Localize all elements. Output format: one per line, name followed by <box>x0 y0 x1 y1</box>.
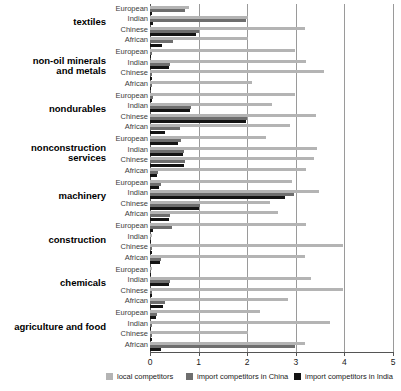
bar-group <box>150 135 393 179</box>
bar-local <box>150 60 306 63</box>
bar-india <box>150 338 152 341</box>
bar-local <box>150 223 306 226</box>
bar-india <box>150 55 151 58</box>
bar-india <box>150 131 165 134</box>
bar-row <box>150 157 393 168</box>
x-tick-label-2: 2 <box>237 357 257 367</box>
bar-row <box>150 60 393 71</box>
bar-row <box>150 168 393 179</box>
legend-swatch-icon <box>293 372 302 381</box>
x-tick-0 <box>150 352 151 356</box>
subcategory-label: European <box>108 92 148 100</box>
bar-row <box>150 190 393 201</box>
legend-item[interactable]: import competitors in China <box>185 372 288 381</box>
bar-india <box>150 77 152 80</box>
bar-india <box>150 164 184 167</box>
subcategory-label: European <box>108 179 148 187</box>
legend-item[interactable]: import competitors in India <box>293 372 393 381</box>
subcategory-label: Indian <box>108 146 148 154</box>
bar-china <box>150 9 185 12</box>
bar-india <box>150 99 152 102</box>
category-label: agriculture and food <box>0 322 106 333</box>
legend-label: import competitors in China <box>197 372 288 381</box>
bar-row <box>150 277 393 288</box>
plot-area <box>150 4 393 352</box>
bar-row <box>150 310 393 321</box>
bar-row <box>150 93 393 104</box>
bar-india <box>150 294 152 297</box>
x-tick-label-1: 1 <box>189 357 209 367</box>
bar-india <box>150 240 151 243</box>
bar-row <box>150 234 393 245</box>
bar-row <box>150 180 393 191</box>
bar-india <box>150 348 161 351</box>
bar-india <box>150 142 178 145</box>
bar-india <box>150 153 183 156</box>
bar-row <box>150 255 393 266</box>
bar-row <box>150 27 393 38</box>
bar-group <box>150 265 393 309</box>
subcategory-label: European <box>108 266 148 274</box>
bar-row <box>150 201 393 212</box>
bar-india <box>150 229 153 232</box>
bar-china <box>150 345 295 348</box>
category-axis-labels: textilesnon-oil mineralsand metalsnondur… <box>0 4 106 352</box>
x-tick-3 <box>296 352 297 356</box>
subcategory-label: African <box>108 297 148 305</box>
bar-row <box>150 6 393 17</box>
subcategory-label: European <box>108 5 148 13</box>
chart-legend: local competitorsimport competitors in C… <box>105 372 395 386</box>
subcategory-label: European <box>108 309 148 317</box>
bar-row <box>150 342 393 353</box>
bar-india <box>150 109 190 112</box>
bar-row <box>150 211 393 222</box>
legend-label: import competitors in India <box>305 372 393 381</box>
bar-india <box>150 207 199 210</box>
bar-row <box>150 103 393 114</box>
bar-india <box>150 327 151 330</box>
bar-local <box>150 310 260 313</box>
legend-item[interactable]: local competitors <box>105 372 173 381</box>
legend-swatch-icon <box>105 372 114 381</box>
subcategory-label: European <box>108 48 148 56</box>
bar-india <box>150 283 169 286</box>
bar-group <box>150 91 393 135</box>
bar-local <box>150 255 305 258</box>
bar-row <box>150 16 393 27</box>
bar-row <box>150 81 393 92</box>
x-tick-label-3: 3 <box>286 357 306 367</box>
category-label: nonconstructionservices <box>0 143 106 164</box>
bar-row <box>150 223 393 234</box>
bar-india <box>150 251 152 254</box>
subcategory-label: African <box>108 80 148 88</box>
subcategory-label: Chinese <box>108 330 148 338</box>
subcategory-label: Chinese <box>108 69 148 77</box>
bar-row <box>150 114 393 125</box>
bar-row <box>150 244 393 255</box>
bar-group <box>150 178 393 222</box>
subcategory-label: Indian <box>108 320 148 328</box>
bar-local <box>150 49 295 52</box>
bar-india <box>150 44 162 47</box>
subcategory-label: African <box>108 254 148 262</box>
subcategory-label: Chinese <box>108 200 148 208</box>
bar-india <box>150 33 196 36</box>
bar-row <box>150 298 393 309</box>
bar-china <box>150 226 172 229</box>
legend-swatch-icon <box>185 372 194 381</box>
x-axis-line <box>150 352 394 353</box>
bar-local <box>150 168 306 171</box>
bar-india <box>150 261 160 264</box>
bar-group <box>150 222 393 266</box>
bar-row <box>150 37 393 48</box>
bar-local <box>150 180 292 183</box>
gridline-5 <box>393 4 394 352</box>
subcategory-label: Indian <box>108 15 148 23</box>
bar-india <box>150 87 151 90</box>
category-label: chemicals <box>0 278 106 289</box>
subcategory-label: European <box>108 135 148 143</box>
subcategory-label: Chinese <box>108 26 148 34</box>
x-tick-label-5: 5 <box>383 357 401 367</box>
bar-row <box>150 136 393 147</box>
bar-china <box>150 19 246 22</box>
